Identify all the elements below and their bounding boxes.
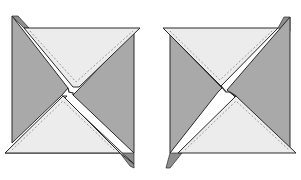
right-block [163,17,296,168]
right-block-bottom-tab [166,153,182,168]
quilt-diagram [0,0,301,180]
left-block-center-notch [68,88,73,95]
left-block [5,16,140,168]
